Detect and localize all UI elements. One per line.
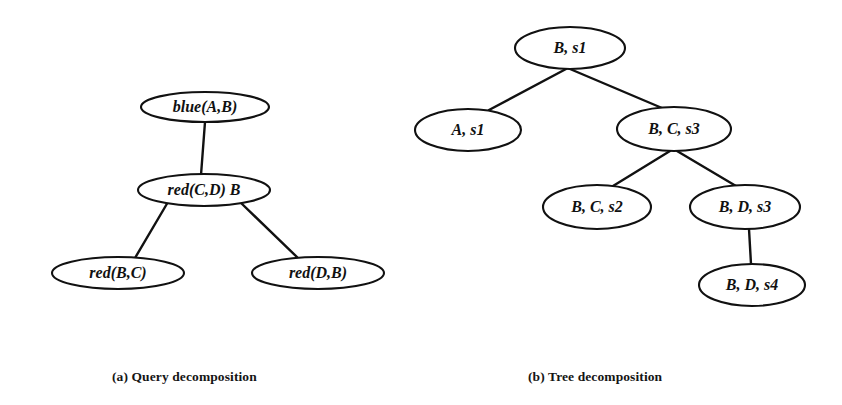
node-a-s1-label: A, s1 <box>451 121 485 138</box>
edge-bs1-to-as1 <box>489 69 566 110</box>
node-b-s1[interactable]: B, s1 <box>515 27 625 69</box>
edge-bds3-to-bds4 <box>749 229 751 264</box>
edge-blueab-to-redcd <box>201 122 205 175</box>
node-b-d-s4-label: B, D, s4 <box>725 276 778 293</box>
edge-redcd-to-reddb <box>240 202 299 259</box>
edge-bs1-to-bcs3 <box>570 69 662 108</box>
caption-tree-decomposition: (b) Tree decomposition <box>528 369 662 385</box>
node-red-bc[interactable]: red(B,C) <box>52 257 184 289</box>
node-b-c-s2[interactable]: B, C, s2 <box>543 185 651 229</box>
node-red-bc-label: red(B,C) <box>89 264 146 282</box>
figure-root: blue(A,B) red(C,D) B red(B,C) red(D,B) <box>0 0 842 405</box>
decomposition-figure-canvas: blue(A,B) red(C,D) B red(B,C) red(D,B) <box>0 0 842 405</box>
node-red-cd-b[interactable]: red(C,D) B <box>138 174 270 206</box>
edge-redcd-to-redbc <box>135 202 168 258</box>
node-b-d-s4[interactable]: B, D, s4 <box>699 264 805 306</box>
panel-tree-decomposition: B, s1 A, s1 B, C, s3 B, C, s2 B, D, s3 <box>415 27 805 306</box>
node-b-d-s3-label: B, D, s3 <box>718 198 771 215</box>
edge-bcs3-to-bds3 <box>677 151 736 186</box>
node-b-s1-label: B, s1 <box>553 39 587 56</box>
node-blue-ab[interactable]: blue(A,B) <box>141 92 269 122</box>
node-red-db[interactable]: red(D,B) <box>252 257 384 289</box>
node-a-s1[interactable]: A, s1 <box>415 109 521 151</box>
node-red-cd-b-label: red(C,D) B <box>168 181 241 199</box>
caption-query-decomposition: (a) Query decomposition <box>112 369 257 385</box>
node-blue-ab-label: blue(A,B) <box>173 98 237 116</box>
node-b-c-s2-label: B, C, s2 <box>570 198 623 215</box>
node-b-d-s3[interactable]: B, D, s3 <box>690 185 800 229</box>
node-b-c-s3-label: B, C, s3 <box>647 120 700 137</box>
node-b-c-s3[interactable]: B, C, s3 <box>617 107 731 151</box>
panel-query-decomposition: blue(A,B) red(C,D) B red(B,C) red(D,B) <box>52 92 384 289</box>
node-red-db-label: red(D,B) <box>289 264 347 282</box>
edge-bcs3-to-bcs2 <box>613 151 670 186</box>
